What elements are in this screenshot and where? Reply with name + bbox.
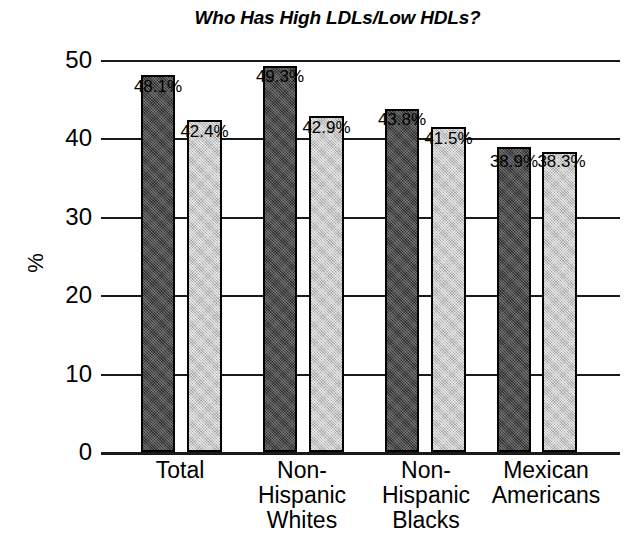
bar (187, 120, 222, 452)
gridline-50 (101, 60, 620, 62)
chart-title: Who Has High LDLs/Low HDLs? (0, 7, 640, 29)
bar (431, 127, 466, 452)
x-category-label-line: Blacks (351, 508, 501, 533)
y-tick-label-10: 10 (46, 362, 92, 386)
bar-value-label: 38.3% (524, 153, 599, 170)
bar (309, 116, 344, 452)
bar-value-label: 48.1% (121, 78, 195, 95)
y-tick-label-0: 0 (46, 440, 92, 464)
y-tick-label-50: 50 (46, 48, 92, 72)
bar-value-label: 43.8% (365, 111, 439, 128)
x-axis-category-labels: TotalNon-HispanicWhitesNon-HispanicBlack… (101, 458, 620, 533)
x-category-label-line: Americans (466, 483, 626, 508)
bar-value-label: 49.3% (243, 68, 317, 85)
y-tick-label-30: 30 (46, 205, 92, 229)
bar-value-label: 42.4% (167, 123, 242, 140)
y-tick-label-40: 40 (46, 126, 92, 150)
plot-area: 48.1%42.4%49.3%42.9%43.8%41.5%38.9%38.3% (101, 60, 620, 452)
bar-value-label: 42.9% (289, 119, 364, 136)
bar-chart: Who Has High LDLs/Low HDLs? 01020304050 … (0, 0, 640, 533)
y-axis-title: % (25, 241, 47, 285)
x-category-label: MexicanAmericans (466, 458, 626, 508)
y-tick-label-20: 20 (46, 283, 92, 307)
x-category-label-line: Mexican (466, 458, 626, 483)
bar-value-label: 41.5% (411, 130, 486, 147)
gridline-0 (101, 452, 620, 455)
bar (497, 147, 531, 452)
bar (542, 152, 577, 452)
bar (385, 109, 419, 452)
